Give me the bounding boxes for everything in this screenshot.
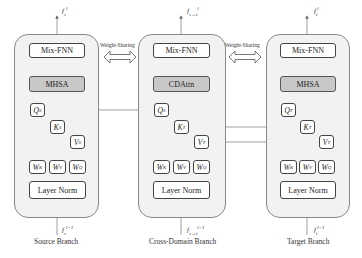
cross-output-label: fs→tl (187, 6, 199, 17)
cross-cdattn-block: CDAttn (153, 76, 210, 92)
cross-wk-block: WK (153, 160, 170, 174)
target-wq-block: WQ (318, 160, 335, 174)
cross-input-label: fs→tl−1 (187, 225, 205, 236)
source-wv-block: WV (49, 160, 66, 174)
source-layer-norm-block: Layer Norm (29, 181, 86, 199)
source-q-block: QS (30, 103, 45, 117)
target-v-block: VT (319, 135, 334, 149)
source-wq-block: WQ (69, 160, 86, 174)
target-branch-caption: Target Branch (287, 237, 329, 246)
cross-wv-block: WV (173, 160, 190, 174)
cross-v-block: VT (194, 135, 209, 149)
source-input-label: fsl−1 (62, 225, 73, 236)
target-wv-block: WV (299, 160, 316, 174)
cross-k-block: KT (174, 120, 189, 134)
target-layer-norm-block: Layer Norm (280, 181, 336, 199)
source-mix-ffn-block: Mix-FNN (29, 43, 85, 58)
target-mhsa-block: MHSA (280, 76, 336, 92)
source-output-label: fsl (62, 6, 67, 17)
source-k-block: KS (50, 120, 65, 134)
source-branch-caption: Source Branch (34, 237, 78, 246)
cross-branch-caption: Cross-Domain Branch (149, 237, 216, 246)
target-wk-block: WK (280, 160, 297, 174)
target-mix-ffn-block: Mix-FNN (280, 43, 336, 58)
target-k-block: KT (300, 120, 315, 134)
cross-layer-norm-block: Layer Norm (153, 181, 210, 199)
source-mhsa-block: MHSA (29, 76, 85, 92)
source-v-block: VS (70, 135, 85, 149)
target-q-block: QT (281, 103, 296, 117)
source-wk-block: WK (29, 160, 46, 174)
weight-sharing-label-right: Weight-Sharing (225, 42, 260, 48)
weight-sharing-label-left: Weight-Sharing (100, 42, 135, 48)
target-output-label: ftl (314, 6, 319, 17)
target-input-label: ftl−1 (314, 225, 325, 236)
cross-wq-block: WQ (193, 160, 210, 174)
cross-mix-ffn-block: Mix-FNN (153, 43, 210, 58)
cross-q-block: QS (154, 103, 169, 117)
